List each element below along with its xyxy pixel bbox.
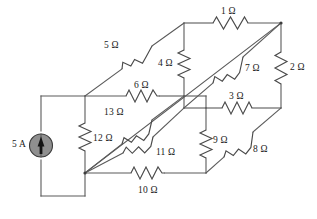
label-r8: 8 Ω bbox=[253, 145, 268, 155]
current-source-arrow-tail bbox=[40, 145, 43, 154]
resistor-r13 bbox=[122, 120, 152, 144]
wire-diag-11-upper bbox=[153, 108, 184, 137]
resistor-r8 bbox=[224, 132, 253, 157]
resistor-r12 bbox=[79, 123, 91, 151]
label-r5: 5 Ω bbox=[104, 41, 119, 51]
resistor-r9 bbox=[200, 130, 212, 158]
wire-depth-topleft-upper bbox=[152, 23, 184, 46]
wire-diag-11-lower bbox=[85, 153, 123, 173]
label-r6: 6 Ω bbox=[134, 81, 149, 91]
wire-depth-topleft-lower bbox=[85, 69, 122, 96]
label-r13: 13 Ω bbox=[104, 108, 124, 118]
resistor-r5 bbox=[122, 46, 152, 69]
wire-depth-8-lower bbox=[206, 157, 224, 173]
resistor-r1 bbox=[213, 17, 248, 29]
label-r7: 7 Ω bbox=[245, 64, 260, 74]
wire-diag-13-upper bbox=[152, 96, 184, 120]
resistor-r10 bbox=[131, 167, 165, 179]
label-r3: 3 Ω bbox=[229, 92, 244, 102]
resistor-r4 bbox=[178, 50, 190, 78]
wire-depth-8-upper bbox=[253, 108, 281, 132]
label-r11: 11 Ω bbox=[156, 148, 175, 158]
label-r9: 9 Ω bbox=[213, 136, 228, 146]
current-source-symbol[interactable] bbox=[30, 134, 53, 157]
label-r2: 2 Ω bbox=[290, 63, 305, 73]
label-current-source: 5 A bbox=[12, 140, 26, 150]
resistor-r3 bbox=[222, 102, 252, 114]
circuit-canvas bbox=[0, 0, 317, 219]
resistor-r7 bbox=[213, 57, 243, 83]
circuit-diagram: 1 Ω 2 Ω 3 Ω 4 Ω 5 Ω 6 Ω 7 Ω 8 Ω 9 Ω 10 Ω… bbox=[0, 0, 317, 219]
node-bottom-left bbox=[83, 171, 86, 174]
label-r1: 1 Ω bbox=[221, 7, 236, 17]
label-r12: 12 Ω bbox=[93, 134, 113, 144]
wire-depth-7-upper bbox=[243, 23, 281, 57]
resistor-r2 bbox=[275, 52, 287, 84]
label-r10: 10 Ω bbox=[138, 186, 158, 196]
resistor-r6 bbox=[126, 90, 160, 102]
label-r4: 4 Ω bbox=[158, 59, 173, 69]
node-top-right bbox=[279, 21, 282, 24]
